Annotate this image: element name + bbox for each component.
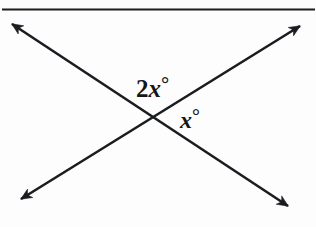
angle-label-2x-coefficient: 2 [136, 75, 149, 102]
geometry-figure: 2x° x° [0, 0, 316, 227]
angle-label-x: x° [180, 106, 200, 132]
angle-label-2x-variable: x [149, 75, 162, 102]
degree-symbol-icon: ° [192, 104, 200, 126]
degree-symbol-icon: ° [161, 73, 169, 95]
angle-label-x-variable: x [180, 107, 192, 133]
angle-label-2x: 2x° [136, 74, 169, 101]
figure-canvas [0, 0, 316, 227]
line-southwest-northeast [21, 26, 300, 199]
